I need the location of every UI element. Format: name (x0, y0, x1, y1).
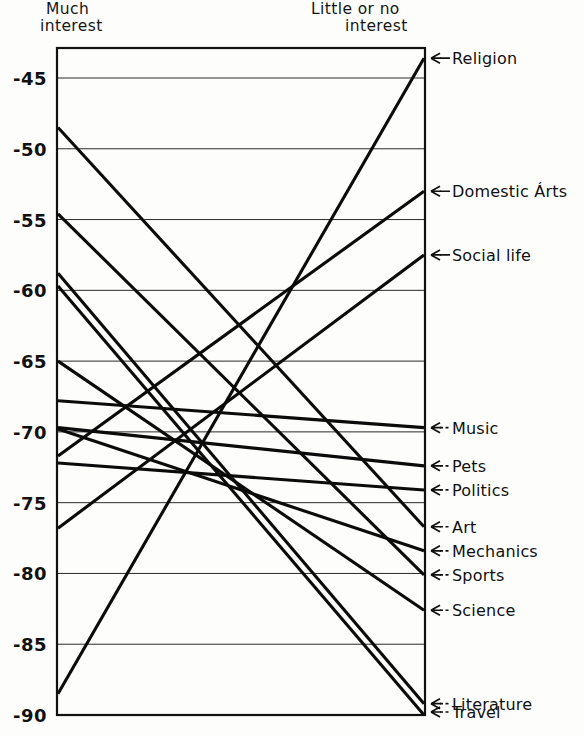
gridlines (57, 78, 425, 644)
y-axis-tick-label: -65 (13, 351, 47, 372)
y-axis-tick-label: -85 (13, 634, 47, 655)
y-axis-tick-label: -55 (13, 210, 47, 231)
data-line-travel (58, 286, 424, 715)
data-line-religion (58, 58, 424, 694)
y-axis-tick-label: -45 (13, 68, 47, 89)
end-label-travel: Travel (431, 703, 501, 722)
chart-headers: Much interest Little or no interest (40, 0, 408, 35)
series-label: Art (452, 518, 476, 537)
end-label-pets: Pets (431, 457, 486, 476)
left-arrow-icon (431, 461, 441, 471)
end-label-politics: Politics (431, 481, 509, 500)
series-label: Travel (451, 703, 501, 722)
series-label: Religion (452, 49, 517, 68)
series-label: Domestic Árts (452, 182, 567, 201)
end-label-music: Music (431, 419, 499, 438)
series-label: Politics (452, 481, 509, 500)
left-arrow-icon (431, 423, 441, 433)
end-label-science: Science (431, 601, 515, 620)
series-end-labels: ReligionDomestic ÁrtsSocial lifeMusicPet… (431, 49, 567, 722)
left-arrow-icon (431, 186, 441, 196)
data-line-domestic-rts (58, 191, 424, 456)
series-label: Mechanics (452, 542, 538, 561)
data-line-music (58, 401, 424, 428)
left-arrow-icon (431, 53, 441, 63)
left-arrow-icon (431, 522, 441, 532)
left-arrow-icon (431, 546, 441, 556)
left-axis-title-line1: Much (46, 0, 89, 18)
right-axis-title-line1: Little or no (311, 0, 400, 18)
left-arrow-icon (431, 605, 441, 615)
left-axis-title-line2: interest (40, 17, 103, 35)
chart-canvas: Much interest Little or no interest -45-… (0, 0, 584, 735)
series-label: Social life (452, 246, 531, 265)
data-lines (58, 58, 424, 715)
end-label-social-life: Social life (431, 246, 531, 265)
y-axis-tick-label: -50 (13, 139, 47, 160)
series-label: Sports (452, 566, 505, 585)
y-axis-tick-labels: -45-50-55-60-65-70-75-80-85-90 (13, 68, 47, 726)
end-label-art: Art (431, 518, 476, 537)
series-label: Science (452, 601, 515, 620)
end-label-religion: Religion (431, 49, 517, 68)
y-axis-tick-label: -60 (13, 280, 47, 301)
data-line-sports (58, 214, 424, 575)
plot-frame (57, 48, 425, 715)
series-label: Music (452, 419, 499, 438)
right-axis-title-line2: interest (345, 17, 408, 35)
end-label-domestic-rts: Domestic Árts (431, 182, 567, 201)
end-label-sports: Sports (431, 566, 505, 585)
y-axis-tick-label: -75 (13, 493, 47, 514)
series-label: Pets (452, 457, 486, 476)
left-arrow-icon (431, 250, 441, 260)
left-arrow-icon (431, 485, 441, 495)
parallel-coordinates-chart: Much interest Little or no interest -45-… (0, 0, 584, 735)
y-axis-tick-label: -80 (13, 563, 47, 584)
y-axis-tick-label: -90 (13, 705, 47, 726)
left-arrow-icon (431, 570, 441, 580)
y-axis-tick-label: -70 (13, 422, 47, 443)
end-label-mechanics: Mechanics (431, 542, 538, 561)
